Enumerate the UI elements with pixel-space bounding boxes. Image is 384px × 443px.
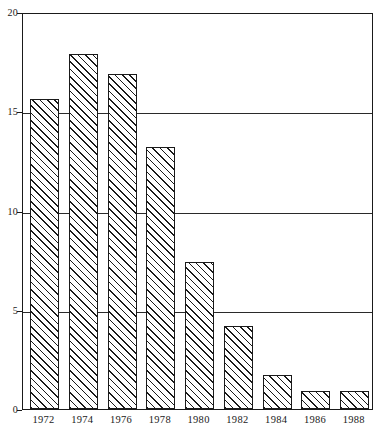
y-axis-tickmark	[17, 410, 22, 411]
plot-area	[22, 13, 373, 410]
bar-1986	[301, 391, 330, 409]
x-axis-tick-1984: 1984	[256, 414, 296, 426]
x-axis-tick-1988: 1988	[334, 414, 374, 426]
x-axis-tick-1980: 1980	[179, 414, 219, 426]
bar-1980	[185, 262, 214, 409]
bar-1972	[30, 99, 59, 409]
bar-1978	[146, 147, 175, 409]
x-axis-tick-1974: 1974	[62, 414, 102, 426]
y-axis-tick-20: 20	[0, 8, 18, 18]
caption-sliver	[0, 432, 384, 443]
x-axis-tick-1978: 1978	[140, 414, 180, 426]
x-axis-tick-1976: 1976	[101, 414, 141, 426]
bar-1974	[69, 54, 98, 409]
y-axis-tick-10: 10	[0, 207, 18, 217]
bar-1976	[108, 74, 137, 409]
bar-1982	[224, 326, 253, 409]
bar-chart: 05101520 1972197419761978198019821984198…	[0, 0, 384, 443]
y-axis-tick-5: 5	[0, 306, 18, 316]
bar-1988	[340, 391, 369, 409]
bar-1984	[263, 375, 292, 409]
x-axis-tick-1972: 1972	[24, 414, 64, 426]
y-axis-tick-0: 0	[0, 405, 18, 415]
x-axis-tick-1982: 1982	[217, 414, 257, 426]
x-axis-tick-1986: 1986	[295, 414, 335, 426]
y-axis-tick-15: 15	[0, 107, 18, 117]
